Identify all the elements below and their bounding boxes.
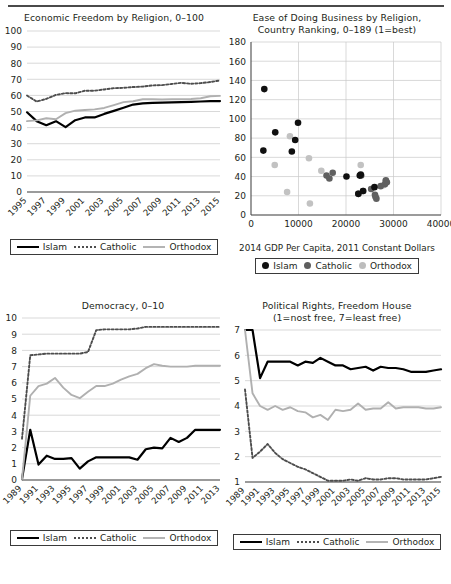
- y-axis-tick-label: 4: [11, 410, 17, 420]
- legend-item-orthodox: Orthodox: [143, 533, 211, 543]
- scatter-point-islam: [371, 183, 378, 190]
- y-axis-tick-label: 5: [11, 394, 17, 404]
- legend-swatch-orthodox-line: [143, 537, 165, 539]
- legend-swatch-catholic-dot: [304, 262, 311, 269]
- y-axis-tick-label: 7: [11, 361, 17, 371]
- chart-title-line2: Country Ranking, 0–189 (1=best): [223, 24, 451, 36]
- chart-panel-ease-of-doing-business: Ease of Doing Business by Religion, Coun…: [223, 12, 451, 288]
- chart-title-political-rights: Political Rights, Freedom House (1=nost …: [223, 300, 451, 324]
- y-axis-tick-label: 80: [11, 58, 23, 68]
- plot-area-democracy: 0123456789101989199119931995199719992001…: [0, 312, 228, 530]
- x-axis-label-gdp: 2014 GDP Per Capita, 2011 Constant Dolla…: [223, 243, 451, 253]
- legend-item-orthodox: Orthodox: [143, 242, 211, 252]
- scatter-point-orthodox: [306, 155, 313, 162]
- y-axis-tick-label: 60: [235, 152, 247, 162]
- y-axis-tick-label: 8: [11, 345, 17, 355]
- y-axis-tick-label: 140: [229, 75, 246, 85]
- x-axis-tick-label: 2011: [160, 195, 183, 218]
- y-axis-tick-label: 1: [11, 459, 17, 469]
- svg-economic-freedom: 0102030405060708090100199519971999200120…: [0, 24, 228, 239]
- scatter-point-orthodox: [271, 161, 278, 168]
- legend-label-orthodox: Orthodox: [169, 533, 211, 543]
- scatter-point-islam: [260, 147, 267, 154]
- legend-item-islam: Islam: [262, 261, 297, 271]
- legend-item-islam: Islam: [17, 242, 67, 252]
- x-axis-tick-label: 2013: [199, 483, 222, 506]
- legend-item-islam: Islam: [17, 533, 67, 543]
- x-axis-tick-label: 1997: [25, 195, 48, 218]
- y-axis-tick-label: 2: [234, 452, 240, 462]
- scatter-point-catholic: [373, 195, 380, 202]
- y-axis-tick-label: 90: [11, 42, 23, 52]
- legend-row-economic-freedom: Islam Catholic Orthodox: [0, 239, 228, 255]
- legend-row-democracy: Islam Catholic Orthodox: [0, 530, 228, 546]
- series-line-islam: [245, 330, 441, 378]
- legend-item-catholic: Catholic: [297, 537, 360, 547]
- legend-label-orthodox: Orthodox: [392, 537, 434, 547]
- x-axis-tick-label: 20000: [332, 219, 361, 229]
- legend-item-catholic: Catholic: [304, 261, 352, 271]
- legend-row-ease-of-doing-business: Islam Catholic Orthodox: [223, 258, 451, 274]
- y-axis-tick-label: 30: [11, 139, 23, 149]
- legend-swatch-orthodox-line: [143, 246, 165, 248]
- chart-panel-economic-freedom: Economic Freedom by Religion, 0–100 0102…: [0, 12, 228, 288]
- y-axis-tick-label: 10: [6, 313, 18, 323]
- legend-political-rights: Islam Catholic Orthodox: [233, 534, 441, 550]
- x-axis-tick-label: 2009: [141, 195, 164, 218]
- series-line-islam: [22, 429, 220, 478]
- legend-label-orthodox: Orthodox: [370, 261, 412, 271]
- series-line-islam: [27, 101, 220, 127]
- chart-title-economic-freedom: Economic Freedom by Religion, 0–100: [0, 12, 228, 24]
- legend-democracy: Islam Catholic Orthodox: [10, 530, 218, 546]
- legend-label-islam: Islam: [266, 537, 290, 547]
- chart-title-ease-of-doing-business: Ease of Doing Business by Religion, Coun…: [223, 12, 451, 36]
- y-axis-tick-label: 100: [5, 26, 22, 36]
- legend-swatch-islam-line: [17, 246, 39, 248]
- scatter-point-islam: [360, 187, 367, 194]
- legend-swatch-orthodox-line: [366, 541, 388, 543]
- y-axis-tick-label: 180: [229, 37, 246, 47]
- chart-title-democracy: Democracy, 0–10: [18, 300, 228, 312]
- y-axis-tick-label: 50: [11, 106, 23, 116]
- y-axis-tick-label: 0: [240, 210, 246, 220]
- figure-page: Economic Freedom by Religion, 0–100 0102…: [0, 0, 451, 584]
- x-axis-tick-label: 2013: [180, 195, 203, 218]
- y-axis-tick-label: 160: [229, 56, 246, 66]
- x-axis-tick-label: 2001: [64, 195, 87, 218]
- legend-row-political-rights: Islam Catholic Orthodox: [223, 534, 451, 550]
- scatter-point-orthodox: [318, 167, 325, 174]
- legend-swatch-islam-line: [240, 541, 262, 543]
- x-axis-tick-label: 40000: [427, 219, 451, 229]
- scatter-point-catholic: [326, 175, 333, 182]
- y-axis-tick-label: 4: [234, 401, 240, 411]
- scatter-point-islam: [261, 85, 268, 92]
- legend-label-catholic: Catholic: [315, 261, 352, 271]
- x-axis-tick-label: 0: [248, 219, 254, 229]
- legend-item-islam: Islam: [240, 537, 290, 547]
- chart-title-line1: Political Rights, Freedom House: [223, 300, 451, 312]
- chart-panel-democracy: Democracy, 0–10 012345678910198919911993…: [0, 300, 228, 584]
- legend-ease-of-doing-business: Islam Catholic Orthodox: [255, 258, 418, 274]
- y-axis-tick-label: 10: [11, 171, 23, 181]
- chart-panel-political-rights: Political Rights, Freedom House (1=nost …: [223, 300, 451, 584]
- plot-area-ease-of-doing-business: 0204060801001201401601800100002000030000…: [223, 36, 451, 241]
- legend-swatch-catholic-line: [297, 541, 319, 543]
- top-divider-rule: [8, 5, 444, 7]
- plot-area-economic-freedom: 0102030405060708090100199519971999200120…: [0, 24, 228, 239]
- x-axis-tick-label: 2003: [83, 195, 106, 218]
- scatter-point-catholic: [329, 169, 336, 176]
- scatter-point-catholic: [384, 179, 391, 186]
- y-axis-tick-label: 3: [234, 426, 240, 436]
- legend-item-orthodox: Orthodox: [366, 537, 434, 547]
- svg-political-rights: 1234567198919911993199519971999200120032…: [223, 324, 451, 534]
- legend-label-catholic: Catholic: [100, 533, 137, 543]
- y-axis-tick-label: 70: [11, 74, 23, 84]
- scatter-point-orthodox: [284, 188, 291, 195]
- x-axis-tick-label: 2005: [102, 195, 125, 218]
- y-axis-tick-label: 20: [235, 191, 247, 201]
- y-axis-tick-label: 9: [11, 329, 17, 339]
- x-axis-tick-label: 10000: [284, 219, 313, 229]
- legend-item-catholic: Catholic: [74, 242, 137, 252]
- scatter-point-islam: [343, 173, 350, 180]
- y-axis-tick-label: 40: [235, 171, 247, 181]
